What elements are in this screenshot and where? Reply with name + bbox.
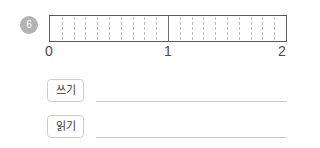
write-mode-button[interactable]: 쓰기 — [47, 79, 84, 102]
number-line-minor-tick — [121, 17, 122, 40]
number-line-minor-tick — [274, 17, 275, 40]
number-line-axis-labels: 0 1 2 — [49, 43, 287, 60]
number-line-minor-tick — [192, 17, 193, 40]
question-number-badge: 6 — [20, 16, 38, 34]
answer-row-read: 읽기 — [47, 114, 287, 138]
read-answer-field[interactable] — [92, 115, 287, 138]
write-answer-field[interactable] — [92, 79, 287, 102]
number-line-minor-tick — [156, 17, 157, 40]
number-line-minor-tick — [251, 17, 252, 40]
read-answer-underline — [96, 137, 287, 138]
number-line-minor-tick — [97, 17, 98, 40]
axis-tick-label-1: 1 — [164, 43, 172, 60]
number-line-minor-tick — [85, 17, 86, 40]
number-line-bar — [49, 15, 287, 42]
axis-tick-label-0: 0 — [45, 43, 53, 60]
number-line-minor-tick — [180, 17, 181, 40]
number-line-minor-tick — [62, 17, 63, 40]
number-line — [49, 15, 287, 42]
number-line-minor-tick — [109, 17, 110, 40]
read-mode-button[interactable]: 읽기 — [47, 115, 84, 138]
number-line-minor-tick — [239, 17, 240, 40]
number-line-minor-tick — [262, 17, 263, 40]
number-line-minor-tick — [144, 17, 145, 40]
number-line-minor-tick — [133, 17, 134, 40]
number-line-major-tick — [168, 16, 169, 41]
number-line-minor-tick — [203, 17, 204, 40]
number-line-minor-tick — [74, 17, 75, 40]
number-line-minor-tick — [215, 17, 216, 40]
axis-tick-label-2: 2 — [278, 43, 286, 60]
number-line-minor-tick — [227, 17, 228, 40]
write-answer-underline — [96, 101, 287, 102]
answer-row-write: 쓰기 — [47, 78, 287, 102]
